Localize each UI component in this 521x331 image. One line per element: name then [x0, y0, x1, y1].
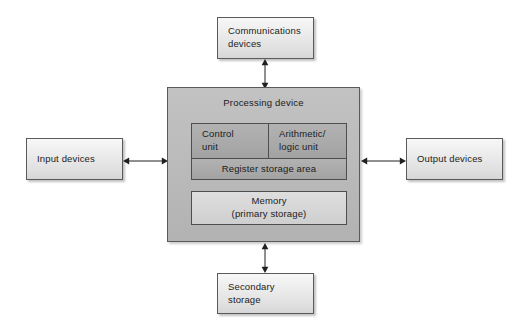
output-devices-label: Output devices	[417, 153, 482, 166]
communications-devices-label: Communications devices	[228, 25, 301, 51]
register-storage-area-label: Register storage area	[222, 163, 317, 176]
input-devices-box: Input devices	[26, 138, 123, 180]
input-devices-label: Input devices	[37, 153, 95, 166]
arithmetic-logic-unit-cell: Arithmetic/ logic unit	[268, 123, 347, 159]
control-unit-label: Control unit	[202, 128, 234, 153]
memory-block: Memory (primary storage)	[191, 191, 347, 225]
memory-label: Memory (primary storage)	[232, 195, 307, 220]
diagram-canvas: Communications devices Input devices Pro…	[0, 0, 521, 331]
secondary-storage-box: Secondary storage	[217, 273, 314, 314]
processing-device-label: Processing device	[168, 97, 359, 110]
output-devices-box: Output devices	[406, 138, 503, 180]
input-to-processing-arrow	[123, 154, 168, 168]
control-unit-cell: Control unit	[191, 123, 269, 159]
processing-to-secondary-arrow	[258, 243, 272, 273]
arithmetic-logic-unit-label: Arithmetic/ logic unit	[279, 128, 326, 153]
secondary-storage-label: Secondary storage	[228, 281, 275, 307]
communications-to-processing-arrow	[258, 59, 272, 89]
processing-device-box: Processing device Control unit Arithmeti…	[167, 87, 360, 242]
communications-devices-box: Communications devices	[217, 17, 314, 59]
register-storage-area-cell: Register storage area	[191, 158, 347, 180]
processing-to-output-arrow	[361, 154, 406, 168]
